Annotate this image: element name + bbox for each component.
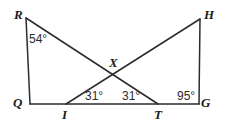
geometry-figure: R H Q G I T X 54° 31° 31° 95° [0, 0, 227, 125]
point-label-T: T [154, 108, 162, 121]
angle-label-at-I: 31° [85, 90, 103, 102]
segment-R-Q [26, 18, 30, 104]
point-label-I: I [62, 108, 67, 121]
point-label-Q: Q [13, 96, 22, 109]
point-label-G: G [201, 96, 210, 109]
point-label-H: H [204, 8, 214, 21]
point-label-X: X [109, 56, 118, 69]
angle-label-at-G: 95° [177, 90, 195, 102]
point-label-R: R [14, 8, 23, 21]
angle-label-at-R: 54° [29, 33, 47, 45]
angle-label-at-T: 31° [122, 90, 140, 102]
segment-H-G [199, 19, 200, 104]
